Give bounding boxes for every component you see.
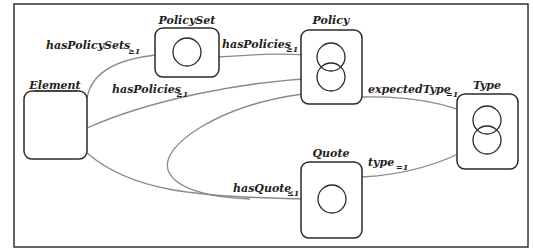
diagram-canvas: Element PolicySet Policy Quote Type hasP…: [0, 0, 533, 252]
node-policyset-label: PolicySet: [158, 14, 216, 27]
edge-label-hasquote: hasQuote: [233, 182, 291, 195]
edge-label-expectedtype: expectedType: [368, 83, 451, 96]
edge-card-hasquote: ≤1: [287, 188, 299, 198]
edge-card-expectedtype: =1: [446, 89, 458, 99]
edge-card-haspolicies-1: ≥1: [286, 44, 298, 54]
node-policy[interactable]: Policy: [301, 14, 362, 104]
edge-label-type: type: [368, 156, 394, 169]
edge-label-haspolicysets: hasPolicySets: [46, 39, 130, 52]
edge-card-type: =1: [396, 162, 408, 172]
node-element-label: Element: [28, 79, 80, 92]
node-quote[interactable]: Quote: [301, 147, 362, 238]
edge-label-haspolicies-1: hasPolicies: [222, 38, 291, 51]
edge-card-haspolicies-2: ≥1: [176, 89, 188, 99]
node-policyset[interactable]: PolicySet: [155, 14, 219, 77]
node-policy-label: Policy: [312, 14, 351, 27]
node-type-label: Type: [473, 79, 501, 92]
node-element[interactable]: Element: [24, 79, 87, 159]
edge-card-haspolicysets: ≥1: [128, 46, 140, 56]
node-type[interactable]: Type: [457, 79, 518, 169]
node-quote-label: Quote: [313, 147, 350, 160]
edge-label-haspolicies-2: hasPolicies: [112, 83, 181, 96]
